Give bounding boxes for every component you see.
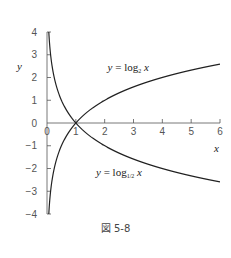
x-tick-label: 4 [160,126,166,137]
figure-caption: 図 5-8 [0,220,231,235]
x-tick-label: 0 [44,126,50,137]
x-tick-label: 6 [217,126,223,137]
y-tick-label: 1 [31,95,37,106]
series-log2-curve [49,64,220,214]
x-tick-label: 5 [188,126,194,137]
x-tick-label: 2 [102,126,108,137]
y-tick-label: −2 [26,163,38,174]
x-tick-label: 3 [131,126,137,137]
y-tick-label: −1 [26,140,38,151]
x-tick-label: 1 [73,126,79,137]
y-tick-label: 3 [31,49,37,60]
log-functions-chart: 0123456 43210−1−2−3−4 x y y = log2 xy = … [0,0,231,220]
series-log-half-curve [49,32,220,182]
y-tick-label: −3 [26,186,38,197]
annotation-log2: y = log2 x [107,61,149,74]
x-axis-label: x [213,142,219,154]
y-tick-label: −4 [26,209,38,220]
y-tick-label: 4 [31,27,37,38]
y-tick-label: 2 [31,72,37,83]
y-axis-label: y [16,60,22,72]
y-tick-label: 0 [31,118,37,129]
annotation-log-half: y = log1/2 x [95,166,142,179]
